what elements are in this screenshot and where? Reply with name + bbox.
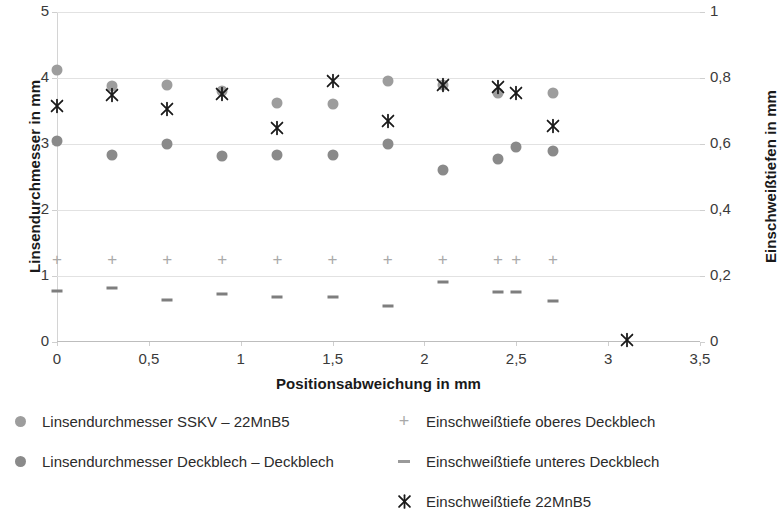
y-axis-left-tick-label: 4	[9, 68, 49, 85]
y-axis-left-tick-label: 1	[9, 266, 49, 283]
y-axis-right-tick-label: 0,8	[710, 68, 756, 85]
y-axis-right-tick-label: 1	[710, 2, 756, 19]
data-point-dash	[490, 284, 505, 299]
data-point-plus: +	[215, 251, 230, 266]
x-tick-mark	[516, 342, 517, 346]
data-point-plus: +	[380, 251, 395, 266]
data-point-circle	[492, 154, 503, 165]
y-axis-right-title: Einschweißtiefen in mm	[762, 47, 779, 307]
data-point-plus: +	[160, 251, 175, 266]
data-point-star	[619, 333, 634, 348]
legend-item-label: Einschweißtiefe 22MnB5	[426, 493, 591, 510]
data-point-circle	[107, 150, 118, 161]
data-point-star	[509, 86, 524, 101]
legend-dash-icon	[392, 452, 416, 470]
x-axis-tick-label: 1	[211, 350, 271, 367]
gridline	[57, 210, 700, 211]
legend-item-label: Einschweißtiefe unteres Deckblech	[426, 453, 659, 470]
y-axis-left-tick-label: 2	[9, 200, 49, 217]
x-axis-line	[57, 341, 700, 342]
legend-item[interactable]: Linsendurchmesser SSKV – 22MnB5	[8, 412, 290, 430]
x-tick-mark	[241, 342, 242, 346]
data-point-plus: +	[325, 251, 340, 266]
x-tick-mark	[700, 342, 701, 346]
data-point-circle	[162, 79, 173, 90]
legend-item[interactable]: Einschweißtiefe unteres Deckblech	[392, 452, 659, 470]
data-point-plus: +	[490, 251, 505, 266]
plot-area: +++++++++++	[57, 12, 700, 342]
data-point-circle	[511, 141, 522, 152]
legend-circle-dark-icon	[8, 452, 32, 470]
y2-tick-mark	[700, 210, 705, 211]
x-tick-mark	[608, 342, 609, 346]
data-point-circle	[272, 149, 283, 160]
x-tick-mark	[57, 342, 58, 346]
data-point-star	[325, 74, 340, 89]
data-point-dash	[160, 293, 175, 308]
data-point-dash	[215, 286, 230, 301]
data-point-star	[50, 99, 65, 114]
legend-item[interactable]: Einschweißtiefe 22MnB5	[392, 492, 591, 510]
chart-legend: Linsendurchmesser SSKV – 22MnB5Linsendur…	[0, 404, 771, 511]
y2-tick-mark	[700, 78, 705, 79]
y-axis-left-tick-label: 5	[9, 2, 49, 19]
y-tick-mark	[52, 78, 57, 79]
y-axis-right-tick-label: 0	[710, 332, 756, 349]
gridline	[57, 144, 700, 145]
data-point-star	[380, 113, 395, 128]
data-point-circle	[548, 145, 559, 156]
data-point-circle	[327, 99, 338, 110]
data-point-circle	[327, 150, 338, 161]
gridline	[57, 276, 700, 277]
data-point-star	[490, 80, 505, 95]
legend-circle-light-icon	[8, 412, 32, 430]
data-point-dash	[546, 294, 561, 309]
data-point-plus: +	[50, 251, 65, 266]
y2-tick-mark	[700, 12, 705, 13]
legend-item-label: Linsendurchmesser SSKV – 22MnB5	[42, 413, 290, 430]
data-point-circle	[272, 98, 283, 109]
data-point-circle	[382, 75, 393, 86]
x-tick-mark	[149, 342, 150, 346]
data-point-star	[270, 121, 285, 136]
data-point-circle	[52, 136, 63, 147]
legend-star-icon	[392, 492, 416, 510]
y-tick-mark	[52, 276, 57, 277]
y-axis-right-tick-label: 0,2	[710, 266, 756, 283]
x-axis-tick-label: 0,5	[119, 350, 179, 367]
data-point-dash	[380, 299, 395, 314]
x-tick-mark	[424, 342, 425, 346]
legend-item-label: Einschweißtiefe oberes Deckblech	[426, 413, 655, 430]
x-axis-title: Positionsabweichung in mm	[57, 375, 700, 392]
y-axis-left-tick-label: 0	[9, 332, 49, 349]
data-point-star	[160, 102, 175, 117]
data-point-plus: +	[105, 251, 120, 266]
x-tick-mark	[333, 342, 334, 346]
data-point-star	[546, 118, 561, 133]
data-point-dash	[435, 274, 450, 289]
y-tick-mark	[52, 210, 57, 211]
data-point-dash	[270, 290, 285, 305]
x-axis-tick-label: 3	[578, 350, 638, 367]
gridline	[57, 78, 700, 79]
x-axis-tick-label: 3,5	[670, 350, 730, 367]
data-point-circle	[437, 165, 448, 176]
data-point-plus: +	[546, 251, 561, 266]
data-point-star	[435, 77, 450, 92]
x-axis-tick-label: 2,5	[486, 350, 546, 367]
legend-item[interactable]: +Einschweißtiefe oberes Deckblech	[392, 412, 655, 430]
data-point-dash	[325, 290, 340, 305]
data-point-circle	[52, 65, 63, 76]
y-axis-right-tick-label: 0,4	[710, 200, 756, 217]
legend-plus-icon: +	[392, 412, 416, 430]
data-point-plus: +	[509, 251, 524, 266]
y-axis-left-tick-label: 3	[9, 134, 49, 151]
data-point-dash	[50, 283, 65, 298]
data-point-plus: +	[270, 251, 285, 266]
y-tick-mark	[52, 12, 57, 13]
data-point-plus: +	[435, 251, 450, 266]
y-axis-right-tick-label: 0,6	[710, 134, 756, 151]
data-point-dash	[105, 280, 120, 295]
legend-item[interactable]: Linsendurchmesser Deckblech – Deckblech	[8, 452, 334, 470]
legend-item-label: Linsendurchmesser Deckblech – Deckblech	[42, 453, 334, 470]
